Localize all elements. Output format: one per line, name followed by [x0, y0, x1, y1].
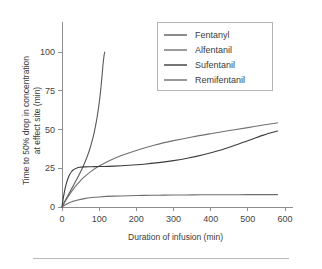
- y-tick-label: 0: [50, 202, 55, 212]
- chart-figure: 02550751000100200300400500600 FentanylAl…: [0, 0, 322, 269]
- x-axis-title: Duration of infusion (min): [128, 232, 223, 242]
- chart-legend: FentanylAlfentanilSufentanilRemifentanil: [157, 22, 272, 90]
- y-tick-label: 25: [45, 163, 55, 173]
- y-tick-label: 100: [40, 47, 55, 57]
- x-tick-label: 500: [240, 214, 255, 224]
- series-line-remifentanil: [62, 195, 278, 207]
- x-tick-label: 300: [166, 214, 181, 224]
- legend-label-remifentanil: Remifentanil: [195, 75, 245, 85]
- context-sensitive-halftime-chart: 02550751000100200300400500600 FentanylAl…: [0, 0, 322, 269]
- x-tick-label: 200: [129, 214, 144, 224]
- legend-label-fentanyl: Fentanyl: [195, 30, 230, 40]
- y-tick-label: 75: [45, 86, 55, 96]
- legend-label-sufentanil: Sufentanil: [195, 60, 235, 70]
- y-axis-title-line2: at effect site (min): [32, 87, 42, 155]
- y-axis-title-line1: Time to 50% drop in concentration: [21, 56, 31, 185]
- x-tick-label: 100: [92, 214, 107, 224]
- y-tick-label: 50: [45, 125, 55, 135]
- legend-label-alfentanil: Alfentanil: [195, 45, 232, 55]
- x-tick-label: 0: [59, 214, 64, 224]
- x-tick-label: 600: [277, 214, 292, 224]
- x-tick-label: 400: [203, 214, 218, 224]
- series-line-fentanyl: [62, 52, 105, 207]
